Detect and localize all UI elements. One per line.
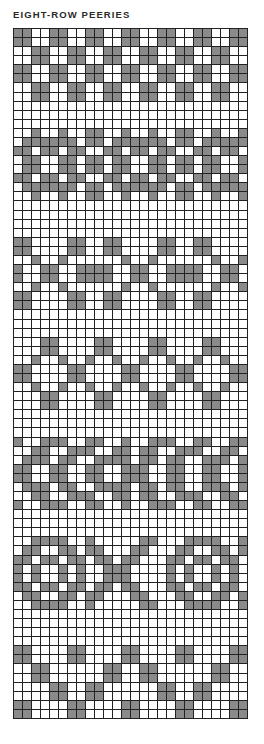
chart-cell-empty bbox=[130, 418, 139, 427]
chart-cell-empty bbox=[76, 400, 85, 409]
chart-cell-empty bbox=[166, 328, 175, 337]
chart-cell-filled bbox=[139, 92, 148, 101]
chart-cell-empty bbox=[22, 609, 31, 618]
chart-cell-filled bbox=[211, 545, 220, 554]
chart-cell-empty bbox=[22, 600, 31, 609]
chart-cell-empty bbox=[220, 364, 229, 373]
chart-cell-filled bbox=[67, 46, 76, 55]
chart-cell-empty bbox=[130, 409, 139, 418]
chart-cell-filled bbox=[139, 446, 148, 455]
chart-cell-empty bbox=[40, 527, 49, 536]
chart-cell-empty bbox=[58, 273, 67, 282]
chart-cell-filled bbox=[58, 137, 67, 146]
chart-cell-empty bbox=[130, 518, 139, 527]
chart-cell-empty bbox=[184, 309, 193, 318]
chart-cell-empty bbox=[130, 101, 139, 110]
chart-cell-empty bbox=[121, 82, 130, 91]
chart-cell-empty bbox=[103, 427, 112, 436]
chart-cell-empty bbox=[67, 73, 76, 82]
chart-cell-empty bbox=[49, 364, 58, 373]
chart-cell-empty bbox=[103, 536, 112, 545]
chart-cell-filled bbox=[157, 164, 166, 173]
chart-cell-filled bbox=[85, 691, 94, 700]
chart-cell-empty bbox=[202, 319, 211, 328]
chart-cell-empty bbox=[166, 673, 175, 682]
chart-cell-filled bbox=[130, 555, 139, 564]
chart-cell-filled bbox=[112, 491, 121, 500]
chart-cell-empty bbox=[31, 618, 40, 627]
chart-cell-empty bbox=[49, 709, 58, 718]
chart-cell-filled bbox=[148, 455, 157, 464]
chart-cell-empty bbox=[139, 128, 148, 137]
chart-cell-filled bbox=[121, 700, 130, 709]
chart-cell-filled bbox=[157, 691, 166, 700]
chart-cell-filled bbox=[184, 164, 193, 173]
chart-cell-empty bbox=[13, 418, 22, 427]
chart-cell-filled bbox=[22, 545, 31, 554]
chart-cell-empty bbox=[238, 509, 247, 518]
chart-cell-empty bbox=[193, 92, 202, 101]
chart-cell-empty bbox=[31, 146, 40, 155]
chart-cell-empty bbox=[166, 101, 175, 110]
chart-cell-empty bbox=[139, 709, 148, 718]
chart-cell-empty bbox=[22, 673, 31, 682]
chart-cell-filled bbox=[94, 164, 103, 173]
chart-cell-empty bbox=[67, 473, 76, 482]
chart-cell-filled bbox=[139, 273, 148, 282]
chart-cell-empty bbox=[175, 663, 184, 672]
chart-cell-filled bbox=[31, 55, 40, 64]
chart-cell-filled bbox=[94, 37, 103, 46]
chart-cell-empty bbox=[211, 219, 220, 228]
chart-cell-empty bbox=[94, 509, 103, 518]
chart-cell-empty bbox=[202, 110, 211, 119]
chart-cell-empty bbox=[166, 137, 175, 146]
chart-cell-empty bbox=[31, 527, 40, 536]
chart-cell-empty bbox=[157, 645, 166, 654]
chart-cell-empty bbox=[49, 509, 58, 518]
chart-cell-empty bbox=[202, 119, 211, 128]
chart-cell-empty bbox=[148, 645, 157, 654]
chart-cell-filled bbox=[229, 37, 238, 46]
chart-cell-empty bbox=[184, 391, 193, 400]
chart-cell-empty bbox=[211, 518, 220, 527]
chart-cell-filled bbox=[22, 654, 31, 663]
chart-cell-empty bbox=[85, 418, 94, 427]
chart-cell-empty bbox=[121, 210, 130, 219]
chart-cell-empty bbox=[220, 200, 229, 209]
chart-cell-filled bbox=[13, 437, 22, 446]
chart-cell-empty bbox=[130, 500, 139, 509]
chart-cell-empty bbox=[130, 319, 139, 328]
chart-cell-empty bbox=[67, 337, 76, 346]
chart-cell-filled bbox=[157, 173, 166, 182]
chart-cell-filled bbox=[13, 464, 22, 473]
chart-cell-filled bbox=[238, 500, 247, 509]
chart-cell-empty bbox=[121, 527, 130, 536]
chart-cell-filled bbox=[220, 264, 229, 273]
chart-cell-empty bbox=[211, 709, 220, 718]
chart-cell-empty bbox=[193, 645, 202, 654]
chart-cell-empty bbox=[13, 319, 22, 328]
chart-cell-filled bbox=[166, 73, 175, 82]
chart-cell-filled bbox=[31, 545, 40, 554]
chart-cell-filled bbox=[67, 246, 76, 255]
chart-cell-empty bbox=[229, 346, 238, 355]
chart-cell-filled bbox=[130, 364, 139, 373]
chart-cell-filled bbox=[202, 237, 211, 246]
chart-cell-empty bbox=[58, 46, 67, 55]
chart-cell-empty bbox=[112, 282, 121, 291]
chart-cell-empty bbox=[193, 346, 202, 355]
chart-cell-empty bbox=[184, 110, 193, 119]
chart-cell-filled bbox=[67, 700, 76, 709]
chart-cell-empty bbox=[31, 110, 40, 119]
chart-cell-filled bbox=[166, 582, 175, 591]
chart-cell-filled bbox=[157, 500, 166, 509]
chart-cell-filled bbox=[175, 446, 184, 455]
chart-cell-empty bbox=[76, 73, 85, 82]
chart-cell-empty bbox=[229, 328, 238, 337]
chart-cell-filled bbox=[238, 473, 247, 482]
chart-cell-filled bbox=[67, 455, 76, 464]
chart-cell-filled bbox=[58, 37, 67, 46]
chart-cell-empty bbox=[130, 355, 139, 364]
chart-cell-empty bbox=[85, 146, 94, 155]
chart-cell-filled bbox=[31, 164, 40, 173]
